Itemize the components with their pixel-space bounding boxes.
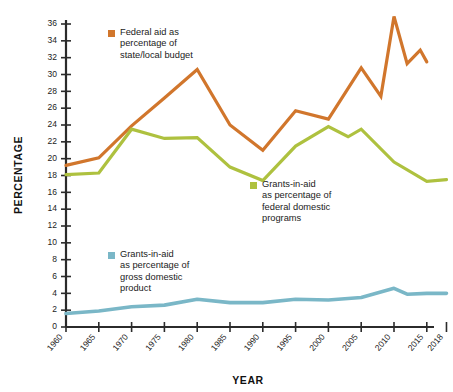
x-tick-label: 1980: [176, 332, 196, 353]
legend-line: as percentage of: [120, 260, 189, 271]
x-tick-label: 1990: [242, 332, 262, 353]
chart-container: 024681012141618202224262830323436 196019…: [0, 0, 453, 392]
y-tick-label: 28: [48, 86, 58, 96]
legend-swatch-orange: [108, 30, 115, 37]
y-tick-label: 18: [48, 170, 58, 180]
y-tick-label: 14: [48, 203, 58, 213]
x-axis-title: YEAR: [232, 374, 264, 386]
x-axis: 1960196519701975198019851990199520002005…: [45, 322, 447, 353]
x-tick-label: 2015: [406, 332, 426, 353]
legend-label-gdp: Grants-in-aid as percentage of gross dom…: [120, 249, 189, 295]
legend-line: percentage of: [120, 38, 193, 49]
y-tick-label: 22: [48, 136, 58, 146]
y-tick-label: 12: [48, 220, 58, 230]
x-tick-label: 2005: [340, 332, 360, 353]
x-tick-label: 1985: [209, 332, 229, 353]
x-tick-label: 1965: [78, 332, 98, 353]
legend-line: Federal aid as: [120, 27, 193, 38]
legend-label-federal-domestic: Grants-in-aid as percentage of federal d…: [262, 179, 331, 225]
y-tick-label: 10: [48, 237, 58, 247]
legend-line: programs: [262, 213, 331, 224]
y-axis-title: PERCENTAGE: [12, 136, 24, 214]
legend-line: product: [120, 283, 189, 294]
legend-line: as percentage of: [262, 190, 331, 201]
legend-line: Grants-in-aid: [262, 179, 331, 190]
y-tick-label: 8: [52, 254, 57, 264]
y-tick-label: 34: [48, 35, 58, 45]
legend-line: Grants-in-aid: [120, 249, 189, 260]
legend-label-federal-aid: Federal aid as percentage of state/local…: [120, 27, 193, 61]
legend-swatch-blue: [108, 252, 115, 259]
y-tick-label: 30: [48, 69, 58, 79]
y-tick-label: 16: [48, 187, 58, 197]
x-tick-label: 2010: [373, 332, 393, 353]
x-tick-label: 1970: [110, 332, 130, 353]
y-tick-label: 6: [52, 271, 57, 281]
legend-line: state/local budget: [120, 50, 193, 61]
x-tick-label: 1975: [143, 332, 163, 353]
x-tick-label: 1960: [45, 332, 65, 353]
line-chart-plot: 024681012141618202224262830323436 196019…: [0, 0, 453, 392]
y-tick-label: 24: [48, 119, 58, 129]
y-tick-label: 26: [48, 102, 58, 112]
x-tick-label: 1995: [274, 332, 294, 353]
y-tick-label: 20: [48, 153, 58, 163]
y-tick-label: 32: [48, 52, 58, 62]
legend-swatch-green: [250, 182, 257, 189]
x-tick-label: 2018: [425, 332, 445, 353]
y-tick-label: 2: [52, 304, 57, 314]
legend-line: federal domestic: [262, 202, 331, 213]
y-tick-label: 36: [48, 18, 58, 28]
y-tick-label: 0: [52, 321, 57, 331]
x-tick-label: 2000: [307, 332, 327, 353]
legend-line: gross domestic: [120, 272, 189, 283]
y-tick-label: 4: [52, 288, 57, 298]
